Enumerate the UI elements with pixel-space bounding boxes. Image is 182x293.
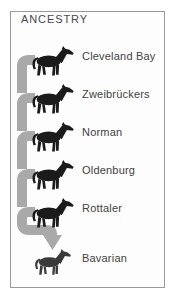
horse-icon <box>29 84 76 114</box>
breed-label: Oldenburg <box>82 163 135 177</box>
breed-label: Bavarian <box>82 251 127 265</box>
ancestry-diagram: ANCESTRY Cleveland Bay Zweibrückers Norm… <box>0 0 182 293</box>
breed-label: Zweibrückers <box>82 87 150 101</box>
breed-label: Cleveland Bay <box>82 49 156 63</box>
horse-icon <box>29 160 76 190</box>
horse-icon <box>29 198 76 228</box>
breed-label: Rottaler <box>82 201 122 215</box>
horse-icon-bavarian <box>30 249 75 275</box>
horse-icon <box>29 46 76 76</box>
panel-title: ANCESTRY <box>21 13 88 25</box>
horse-icon <box>29 122 76 152</box>
breed-label: Norman <box>82 125 122 139</box>
